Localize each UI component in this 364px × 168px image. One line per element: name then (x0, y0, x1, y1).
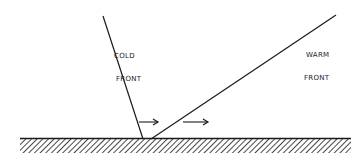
cold-front-label-line2: FRONT (114, 76, 141, 84)
ground-hatching (20, 139, 351, 153)
cold-front-label-line1: COLD (114, 53, 141, 61)
warm-front-label-line2: FRONT (304, 75, 329, 83)
warm-front-label: WARM FRONT (304, 37, 329, 90)
cold-front-label: COLD FRONT (114, 38, 141, 91)
warm-front-label-line1: WARM (304, 52, 329, 60)
